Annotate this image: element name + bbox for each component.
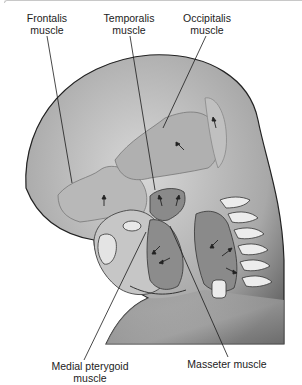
embryo-head-illustration [0, 0, 302, 385]
anatomy-figure: Frontalis muscle Temporalis muscle Occip… [0, 0, 302, 385]
label-occipitalis-muscle: Occipitalis muscle [174, 12, 240, 36]
label-temporalis-muscle: Temporalis muscle [96, 12, 162, 36]
label-masseter-muscle: Masseter muscle [182, 358, 272, 370]
label-medial-pterygoid-muscle: Medial pterygoid muscle [40, 360, 140, 384]
label-frontalis-muscle: Frontalis muscle [20, 12, 74, 36]
